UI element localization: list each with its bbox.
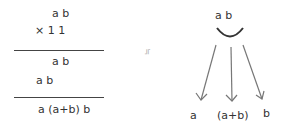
- label-a: a: [190, 110, 197, 122]
- label-b: b: [263, 108, 270, 120]
- arc-icon: [217, 28, 243, 37]
- label-a-plus-b: (a+b): [217, 110, 249, 122]
